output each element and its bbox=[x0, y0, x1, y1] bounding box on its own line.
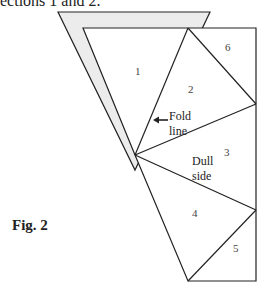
section-label-6: 6 bbox=[225, 42, 231, 53]
section-label-1: 1 bbox=[135, 66, 141, 77]
section-label-3: 3 bbox=[224, 147, 230, 158]
fold-line-label: Fold line bbox=[169, 109, 191, 139]
main-shape bbox=[83, 28, 256, 281]
section-label-4: 4 bbox=[192, 208, 198, 219]
figure-label: Fig. 2 bbox=[12, 217, 48, 234]
section-label-5: 5 bbox=[233, 243, 239, 254]
dull-side-label: Dull side bbox=[192, 154, 213, 184]
section-label-2: 2 bbox=[188, 84, 194, 95]
